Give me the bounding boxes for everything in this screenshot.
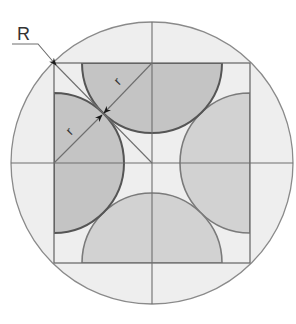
label-R: R (17, 24, 30, 44)
semicircle-packing-diagram: R r r (0, 0, 296, 324)
R-leader-line (12, 44, 56, 65)
